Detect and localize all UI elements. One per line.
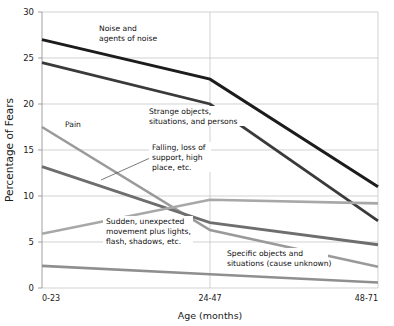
annotation-noise-line-1: Noise and bbox=[99, 24, 137, 33]
annotation-noise-line-2: agents of noise bbox=[99, 34, 158, 43]
annotation-noise: Noise and agents of noise bbox=[96, 23, 164, 43]
annotation-specific-objects: Specific objects and situations (cause u… bbox=[224, 248, 332, 268]
y-tick-label-0: 0 bbox=[29, 283, 34, 293]
y-tick-marks bbox=[38, 12, 42, 288]
x-tick-label-48-71: 48-71 bbox=[355, 294, 378, 303]
x-tick-label-0-23: 0-23 bbox=[42, 294, 60, 303]
annotation-falling-line-1: Falling, loss of bbox=[152, 143, 206, 152]
y-tick-label-20: 20 bbox=[23, 99, 34, 109]
x-tick-labels: 0-23 24-47 48-71 bbox=[42, 294, 378, 303]
annotation-sudden-line-1: Sudden, unexpected bbox=[106, 217, 185, 226]
annotation-pain-line-1: Pain bbox=[65, 120, 81, 129]
annotation-falling-line-3: place, etc. bbox=[152, 163, 192, 172]
x-tick-label-24-47: 24-47 bbox=[198, 294, 221, 303]
clipped-top-text-strip bbox=[0, 0, 394, 7]
y-tick-label-15: 15 bbox=[23, 145, 34, 155]
y-tick-labels: 30 25 20 15 10 5 0 bbox=[23, 7, 34, 293]
annotation-sudden-line-3: flash, shadows, etc. bbox=[106, 237, 181, 246]
annotation-strange-line-2: situations, and persons bbox=[149, 117, 238, 126]
annotation-sudden-movement: Sudden, unexpected movement plus lights,… bbox=[103, 216, 193, 246]
annotation-strange-objects: Strange objects, situations, and persons bbox=[146, 106, 244, 126]
y-tick-label-10: 10 bbox=[23, 191, 34, 201]
y-tick-label-5: 5 bbox=[29, 237, 34, 247]
annotation-strange-line-1: Strange objects, bbox=[149, 107, 211, 116]
annotation-falling: Falling, loss of support, high place, et… bbox=[149, 142, 211, 172]
chart-container: 30 25 20 15 10 5 0 Percentage of Fears 0… bbox=[0, 0, 394, 326]
annotation-pain: Pain bbox=[62, 119, 88, 130]
annotation-sudden-line-2: movement plus lights, bbox=[106, 227, 191, 236]
y-tick-label-30: 30 bbox=[23, 7, 34, 17]
annotation-specific-line-2: situations (cause unknown) bbox=[227, 259, 332, 268]
y-axis-title: Percentage of Fears bbox=[3, 98, 15, 202]
fears-by-age-line-chart: 30 25 20 15 10 5 0 Percentage of Fears 0… bbox=[0, 0, 394, 326]
annotation-falling-line-2: support, high bbox=[152, 153, 203, 162]
y-tick-label-25: 25 bbox=[23, 53, 34, 63]
annotation-specific-line-1: Specific objects and bbox=[227, 249, 303, 258]
x-axis-title: Age (months) bbox=[178, 310, 243, 321]
